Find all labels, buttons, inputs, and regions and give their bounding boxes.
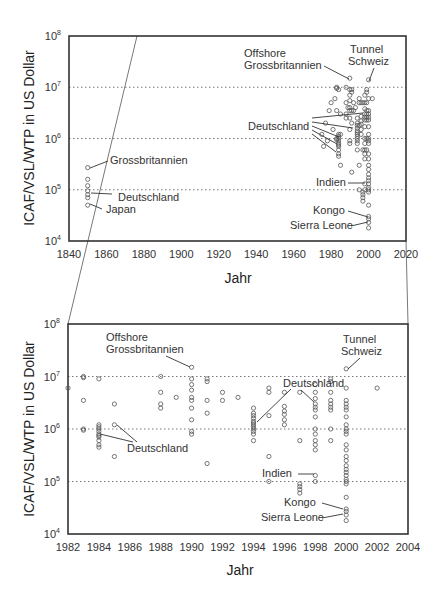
- x-tick-label: 1996: [272, 541, 296, 553]
- data-point: [86, 166, 90, 170]
- data-point: [329, 101, 333, 105]
- data-point: [357, 163, 361, 167]
- data-point: [344, 443, 348, 447]
- ann-japan: Japan: [106, 203, 136, 215]
- ann-deutschland-1850: Deutschland: [118, 191, 179, 203]
- data-point: [267, 454, 271, 458]
- ann-tunnel: Tunnel: [350, 43, 383, 55]
- data-point: [352, 101, 356, 105]
- data-point: [251, 439, 255, 443]
- data-point: [367, 226, 371, 230]
- x-tick-label: 2002: [365, 541, 389, 553]
- y-tick-label: 108: [44, 317, 60, 330]
- y-tick-label: 106: [45, 132, 61, 145]
- x-tick-label: 1880: [132, 248, 156, 260]
- ann-kongo-bottom: Kongo: [284, 496, 316, 508]
- data-point: [367, 203, 371, 207]
- data-point: [190, 398, 194, 402]
- data-point: [338, 163, 342, 167]
- data-point: [344, 459, 348, 463]
- data-point: [327, 109, 331, 113]
- data-point: [335, 109, 339, 113]
- y-tick-label: 107: [44, 370, 60, 383]
- data-point: [298, 439, 302, 443]
- data-point: [282, 418, 286, 422]
- data-point: [357, 97, 361, 101]
- bottom-chart: 108107106105104 198219841986198819901992…: [21, 317, 420, 578]
- data-point: [251, 432, 255, 436]
- x-tick-label: 2020: [394, 248, 418, 260]
- x-tick-label: 1840: [57, 248, 81, 260]
- x-tick-label: 1990: [179, 541, 203, 553]
- x-tick-label: 2004: [396, 541, 420, 553]
- data-point: [159, 402, 163, 406]
- data-point: [313, 443, 317, 447]
- data-point: [236, 395, 240, 399]
- data-point: [329, 390, 333, 394]
- data-point: [190, 377, 194, 381]
- data-point: [329, 408, 333, 412]
- data-point: [348, 141, 352, 145]
- x-tick-label: 1900: [169, 248, 193, 260]
- ann-offshore-bottom: Offshore: [106, 331, 148, 343]
- y-tick-label: 105: [44, 475, 60, 488]
- data-point: [344, 448, 348, 452]
- data-point: [205, 411, 209, 415]
- ann-sierra-bottom: Sierra Leone: [261, 511, 324, 523]
- ann-deutschland-bottom-right: Deutschland: [283, 377, 344, 389]
- data-point: [344, 495, 348, 499]
- data-point: [313, 448, 317, 452]
- x-tick-label: 1992: [210, 541, 234, 553]
- data-point: [331, 127, 335, 131]
- top-chart: 108107106105104 184018601880190019201940…: [21, 29, 418, 286]
- data-point: [159, 406, 163, 410]
- ann-sierra-top: Sierra Leone: [290, 219, 353, 231]
- data-point: [81, 398, 85, 402]
- y-tick-label: 105: [45, 183, 61, 196]
- data-point: [329, 439, 333, 443]
- data-point: [86, 196, 90, 200]
- data-point: [355, 148, 359, 152]
- data-point: [367, 163, 371, 167]
- data-point: [344, 415, 348, 419]
- bottom-y-axis-label: ICAF/VSL/WTP in US Dollar: [21, 341, 37, 517]
- y-tick-label: 108: [45, 29, 61, 42]
- x-tick-label: 1982: [56, 541, 80, 553]
- ann-tunnel-bottom: Tunnel: [343, 333, 376, 345]
- data-point: [313, 397, 317, 401]
- data-point: [344, 519, 348, 523]
- chart-figure: 108107106105104 184018601880190019201940…: [0, 0, 440, 600]
- data-point: [333, 97, 337, 101]
- data-point: [313, 408, 317, 412]
- data-point: [344, 386, 348, 390]
- ann-kongo-top: Kongo: [313, 204, 345, 216]
- data-point: [190, 365, 194, 369]
- x-tick-label: 2000: [334, 541, 358, 553]
- data-point: [267, 390, 271, 394]
- top-y-axis-label: ICAF/VSL/WTP in US Dollar: [21, 50, 37, 226]
- data-point: [220, 398, 224, 402]
- ann-offshore: Offshore: [244, 47, 286, 59]
- ann-offshore-gb-bottom: Grossbritannien: [106, 343, 184, 355]
- x-tick-label: 1940: [244, 248, 268, 260]
- data-point: [313, 432, 317, 436]
- data-point: [159, 390, 163, 394]
- data-point: [367, 132, 371, 136]
- x-tick-label: 1998: [303, 541, 327, 553]
- ann-indien-bottom: Indien: [262, 467, 292, 479]
- data-point: [190, 383, 194, 387]
- data-point: [251, 406, 255, 410]
- bottom-x-axis-label: Jahr: [226, 562, 254, 578]
- data-point: [220, 390, 224, 394]
- data-point: [282, 404, 286, 408]
- data-point: [344, 112, 348, 116]
- data-point: [350, 170, 354, 174]
- data-point: [344, 432, 348, 436]
- data-point: [97, 377, 101, 381]
- data-point: [190, 432, 194, 436]
- data-point: [313, 390, 317, 394]
- data-point: [313, 439, 317, 443]
- data-point: [344, 454, 348, 458]
- data-point: [112, 454, 116, 458]
- data-point: [355, 141, 359, 145]
